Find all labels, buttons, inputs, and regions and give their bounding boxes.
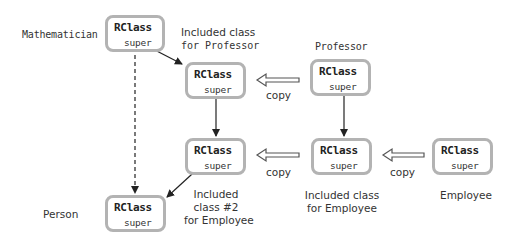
- super-field: super: [204, 160, 232, 171]
- diagram-canvas: RClass super RClass super RClass super R…: [0, 0, 515, 246]
- rclass-box-included-professor: RClass super: [185, 62, 246, 99]
- label-line: class #2: [184, 201, 248, 214]
- class-label: RClass: [114, 201, 152, 214]
- class-label: RClass: [194, 68, 232, 81]
- rclass-box-mathematician: RClass super: [105, 15, 165, 52]
- super-field: super: [330, 160, 358, 171]
- class-label: RClass: [320, 144, 358, 157]
- label-person: Person: [43, 208, 78, 221]
- super-field: super: [204, 84, 232, 95]
- rclass-box-included-employee: RClass super: [311, 138, 372, 175]
- label-line: Included class: [181, 26, 259, 39]
- rclass-box-included-employee-2: RClass super: [185, 138, 246, 175]
- label-line: for Employee: [184, 214, 248, 227]
- copy-arrow-prof: [257, 74, 299, 86]
- super-field: super: [124, 37, 152, 48]
- copy-label-professor: copy: [266, 89, 291, 102]
- label-employee: Employee: [440, 189, 492, 202]
- rclass-box-professor: RClass super: [310, 59, 371, 96]
- label-line: for Professor: [181, 39, 259, 52]
- label-line: Included: [184, 188, 248, 201]
- copy-arrow-emp: [383, 149, 424, 161]
- super-field: super: [451, 160, 479, 171]
- copy-label-employee: copy: [390, 166, 415, 179]
- class-label: RClass: [194, 144, 232, 157]
- super-field: super: [124, 217, 152, 228]
- label-included-employee: Included class for Employee: [304, 189, 380, 215]
- class-label: RClass: [319, 65, 357, 78]
- super-field: super: [329, 81, 357, 92]
- class-label: RClass: [114, 21, 152, 34]
- rclass-box-employee: RClass super: [432, 138, 493, 175]
- label-included-employee-2: Included class #2 for Employee: [184, 188, 248, 227]
- label-mathematician: Mathematician: [22, 28, 98, 41]
- copy-label-included-employee: copy: [266, 166, 291, 179]
- label-included-professor: Included class for Professor: [181, 26, 259, 52]
- label-line: for Employee: [304, 202, 380, 215]
- copy-arrow-inclemp: [257, 149, 299, 161]
- class-label: RClass: [441, 144, 479, 157]
- rclass-box-person: RClass super: [105, 195, 166, 232]
- label-professor: Professor: [315, 40, 367, 53]
- label-line: Included class: [304, 189, 380, 202]
